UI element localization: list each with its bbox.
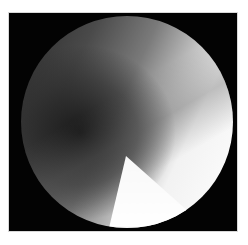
circular-field-of-view [21,16,233,228]
vignette-edge [21,16,233,228]
image-frame [9,13,237,231]
